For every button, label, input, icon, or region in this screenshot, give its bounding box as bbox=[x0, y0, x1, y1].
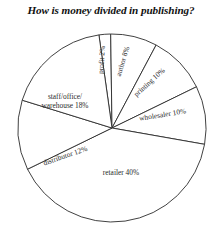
pie-label-line-1: staff/office/ bbox=[48, 92, 83, 101]
pie-label-staff-office-warehouse: staff/office/warehouse 18% bbox=[42, 92, 89, 110]
pie-label-retailer: retailer 40% bbox=[103, 168, 139, 177]
pie-chart-figure: How is money divided in publishing? prof… bbox=[0, 0, 222, 242]
pie-chart-svg: profit 2%author 8%printing 10%wholesaler… bbox=[0, 0, 222, 242]
pie-label-line-2: warehouse 18% bbox=[42, 101, 89, 110]
pie-slices-group bbox=[18, 34, 206, 222]
